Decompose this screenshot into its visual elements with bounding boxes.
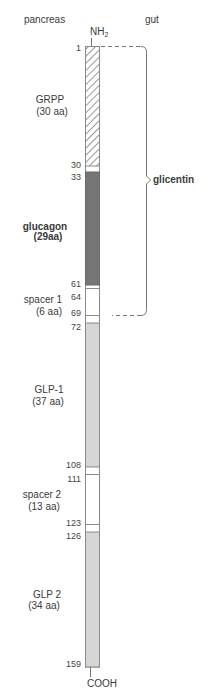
segment-name-glp1: GLP-1 xyxy=(9,384,89,396)
c-terminus-label: COOH xyxy=(87,678,117,690)
segment-length-spacer-2: (13 aa) xyxy=(4,501,84,513)
residue-tick: 123 xyxy=(66,518,81,528)
segment-name-grpp: GRPP xyxy=(10,94,90,106)
pancreas-label: pancreas xyxy=(24,14,65,26)
residue-tick: 159 xyxy=(66,659,81,669)
residue-tick: 33 xyxy=(71,172,81,182)
segment-length-glp1: (37 aa) xyxy=(8,396,88,408)
residue-tick: 111 xyxy=(67,474,81,484)
segment-length-glp2: (34 aa) xyxy=(4,600,84,612)
segment-length-spacer-1: (6 aa) xyxy=(9,306,89,318)
segment-name-spacer-1: spacer 1 xyxy=(3,294,83,306)
segment-glucagon xyxy=(86,172,100,285)
n-terminus-subscript: 2 xyxy=(104,31,108,38)
n-terminus-main: NH xyxy=(90,26,104,37)
residue-tick: 108 xyxy=(66,460,81,470)
residue-tick: 61 xyxy=(71,279,81,289)
n-terminus-label: NH2 xyxy=(90,26,108,38)
segment-name-spacer-2: spacer 2 xyxy=(2,489,82,501)
segment-length-glucagon: (29aa) xyxy=(8,231,88,243)
glicentin-brace-icon xyxy=(141,47,151,316)
residue-tick: 126 xyxy=(66,531,81,541)
gut-label: gut xyxy=(145,14,159,26)
residue-tick: 72 xyxy=(71,322,81,332)
segment-length-grpp: (30 aa) xyxy=(12,106,92,118)
residue-tick: 30 xyxy=(71,160,81,170)
residue-tick: 1 xyxy=(76,43,81,53)
segment-glp2 xyxy=(86,532,100,667)
glicentin-label: glicentin xyxy=(153,174,194,186)
